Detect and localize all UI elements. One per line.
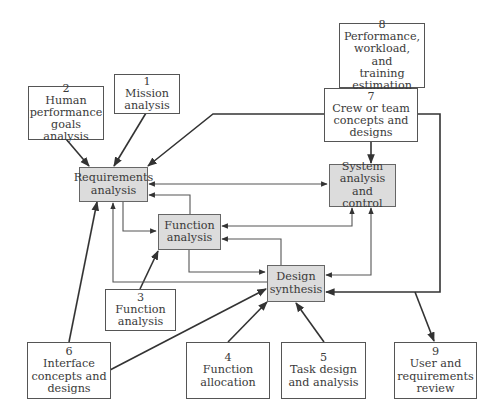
design-synthesis-node: Design synthesis	[267, 265, 325, 302]
node-label: Performance, workload, and training esti…	[342, 31, 422, 92]
node-9-user-requirements-review: 9 User and requirements review	[394, 342, 477, 399]
node-6-interface-concepts: 6 Interface concepts and designs	[27, 342, 111, 399]
diagram-canvas: Requirements analysis System analysis an…	[0, 0, 498, 420]
requirements-analysis-node: Requirements analysis	[79, 167, 148, 202]
node-label: Mission analysis	[124, 88, 170, 112]
node-number: 2	[62, 83, 69, 95]
node-label: User and requirements review	[397, 358, 474, 395]
function-analysis-node: Function analysis	[158, 214, 221, 250]
node-number: 7	[367, 91, 374, 103]
system-analysis-control-node: System analysis and control	[329, 164, 396, 207]
node-5-task-design: 5 Task design and analysis	[281, 342, 366, 399]
node-label: Function analysis	[115, 304, 165, 328]
node-label: Interface concepts and designs	[31, 358, 106, 395]
node-4-function-allocation: 4 Function allocation	[186, 342, 270, 399]
node-label: Crew or team concepts and designs	[332, 103, 410, 140]
node-label: Task design and analysis	[288, 364, 358, 388]
node-label: Design synthesis	[270, 271, 323, 295]
node-label: Human performance goals analysis	[30, 95, 103, 144]
node-label: Function analysis	[164, 220, 214, 244]
node-7-crew-team-concepts: 7 Crew or team concepts and designs	[324, 88, 418, 142]
node-label: System analysis and control	[332, 161, 393, 210]
node-3-function-analysis: 3 Function analysis	[105, 289, 176, 331]
node-label: Requirements analysis	[74, 172, 154, 196]
node-8-performance-estimation: 8 Performance, workload, and training es…	[339, 23, 425, 88]
node-label: Function allocation	[200, 364, 256, 388]
node-2-human-performance: 2 Human performance goals analysis	[28, 86, 104, 140]
node-1-mission-analysis: 1 Mission analysis	[114, 74, 180, 114]
